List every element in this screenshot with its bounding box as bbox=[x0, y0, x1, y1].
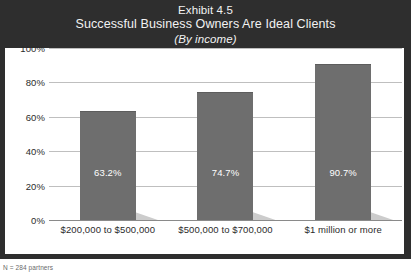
exhibit-header: Exhibit 4.5 Successful Business Owners A… bbox=[0, 0, 411, 47]
y-axis-tick-label: 100% bbox=[20, 43, 45, 54]
exhibit-title: Successful Business Owners Are Ideal Cli… bbox=[0, 17, 411, 32]
bar-value-label: 74.7% bbox=[212, 167, 239, 178]
bar[interactable] bbox=[197, 92, 253, 220]
x-axis-tick-label: $200,000 to $500,000 bbox=[49, 224, 167, 235]
exhibit-subtitle: (By income) bbox=[0, 32, 411, 46]
y-axis-tick-label: 20% bbox=[26, 180, 45, 191]
y-axis-tick-label: 60% bbox=[26, 111, 45, 122]
bar-slot: 90.7% bbox=[284, 48, 402, 220]
bar-value-label: 90.7% bbox=[329, 167, 356, 178]
exhibit-footnote: N = 284 partners bbox=[3, 264, 53, 271]
exhibit-screenshot: Exhibit 4.5 Successful Business Owners A… bbox=[0, 0, 411, 277]
bar-slot: 74.7% bbox=[167, 48, 285, 220]
x-axis-tick-label: $1 million or more bbox=[284, 224, 402, 235]
x-axis-tick-label: $500,000 to $700,000 bbox=[167, 224, 285, 235]
bar[interactable] bbox=[315, 64, 371, 220]
y-axis-tick-label: 80% bbox=[26, 77, 45, 88]
chart-plot-area: 0%20%40%60%80%100% 63.2%74.7%90.7% $200,… bbox=[5, 48, 404, 254]
exhibit-number: Exhibit 4.5 bbox=[0, 3, 411, 17]
y-axis-tick-label: 0% bbox=[31, 215, 45, 226]
exhibit-frame: Exhibit 4.5 Successful Business Owners A… bbox=[0, 0, 411, 259]
x-axis-tick-labels: $200,000 to $500,000$500,000 to $700,000… bbox=[49, 224, 402, 246]
y-axis-tick-label: 40% bbox=[26, 146, 45, 157]
bar-slot: 63.2% bbox=[49, 48, 167, 220]
chart-bars: 63.2%74.7%90.7% bbox=[49, 48, 402, 220]
axis-baseline bbox=[49, 220, 402, 221]
y-axis-tick-labels: 0%20%40%60%80%100% bbox=[5, 48, 47, 220]
bar[interactable] bbox=[80, 111, 136, 220]
bar-value-label: 63.2% bbox=[94, 167, 121, 178]
chart-plot-panel: 0%20%40%60%80%100% 63.2%74.7%90.7% $200,… bbox=[5, 48, 404, 254]
